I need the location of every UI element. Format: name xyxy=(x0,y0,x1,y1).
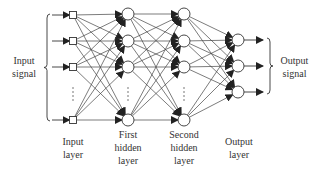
connection xyxy=(75,46,125,117)
label-line: Input xyxy=(55,135,91,148)
label-line: hidden xyxy=(162,141,206,154)
connection xyxy=(75,18,126,115)
ellipsis-dot xyxy=(127,91,128,92)
hidden2-node xyxy=(178,114,190,126)
connection xyxy=(188,70,234,116)
connection xyxy=(189,95,232,117)
input-node xyxy=(70,12,77,19)
hidden1-node xyxy=(122,61,134,73)
input-signal-label: Input signal xyxy=(4,54,44,80)
connections xyxy=(75,14,235,120)
input-signal-line2: signal xyxy=(4,67,44,80)
connection xyxy=(75,19,126,117)
hidden2-node xyxy=(178,8,190,20)
ellipsis-dot xyxy=(72,91,73,92)
label-line: Output xyxy=(219,135,259,148)
connection xyxy=(76,71,124,117)
hidden1-node xyxy=(122,114,134,126)
hidden1-node xyxy=(122,8,134,20)
second-hidden-layer-label: Second hidden layer xyxy=(162,128,206,167)
label-line: layer xyxy=(162,154,206,167)
label-line: layer xyxy=(219,148,259,161)
output-node xyxy=(232,60,244,72)
ellipsis-dot xyxy=(127,95,128,96)
output-node xyxy=(232,34,244,46)
input-node xyxy=(70,64,77,71)
first-hidden-layer-label: First hidden layer xyxy=(108,128,148,167)
input-node xyxy=(70,117,77,124)
label-line: hidden xyxy=(108,141,148,154)
output-signal-line1: Output xyxy=(272,54,317,67)
ellipsis-dot xyxy=(183,87,184,88)
ellipsis-dot xyxy=(72,87,73,88)
connection xyxy=(187,45,234,115)
hidden2-node xyxy=(178,35,190,47)
ellipsis-dot xyxy=(72,99,73,100)
ellipsis-dot xyxy=(183,91,184,92)
connection xyxy=(76,17,124,62)
ellipsis-dot xyxy=(72,95,73,96)
connection xyxy=(189,43,232,65)
label-line: layer xyxy=(108,154,148,167)
hidden2-node xyxy=(178,61,190,73)
input-layer-label: Input layer xyxy=(55,135,91,161)
input-node xyxy=(70,38,77,45)
input-signal-line1: Input xyxy=(4,54,44,67)
input-brace xyxy=(44,14,50,121)
label-line: Second xyxy=(162,128,206,141)
output-signal-label: Output signal xyxy=(272,54,317,80)
connection xyxy=(76,44,122,66)
label-line: First xyxy=(108,128,148,141)
output-node xyxy=(232,86,244,98)
connection xyxy=(76,69,124,115)
ellipsis-dot xyxy=(127,99,128,100)
output-layer-label: Output layer xyxy=(219,135,259,161)
output-signal-line2: signal xyxy=(272,67,317,80)
ellipsis-dot xyxy=(183,99,184,100)
connection xyxy=(189,17,232,38)
connection xyxy=(190,66,232,67)
neural-network-diagram xyxy=(0,0,317,172)
connection xyxy=(76,42,122,64)
ellipsis-dot xyxy=(183,95,184,96)
ellipsis-dot xyxy=(127,87,128,88)
hidden1-node xyxy=(122,35,134,47)
connection xyxy=(190,40,232,41)
label-line: layer xyxy=(55,148,91,161)
connection xyxy=(76,14,122,15)
